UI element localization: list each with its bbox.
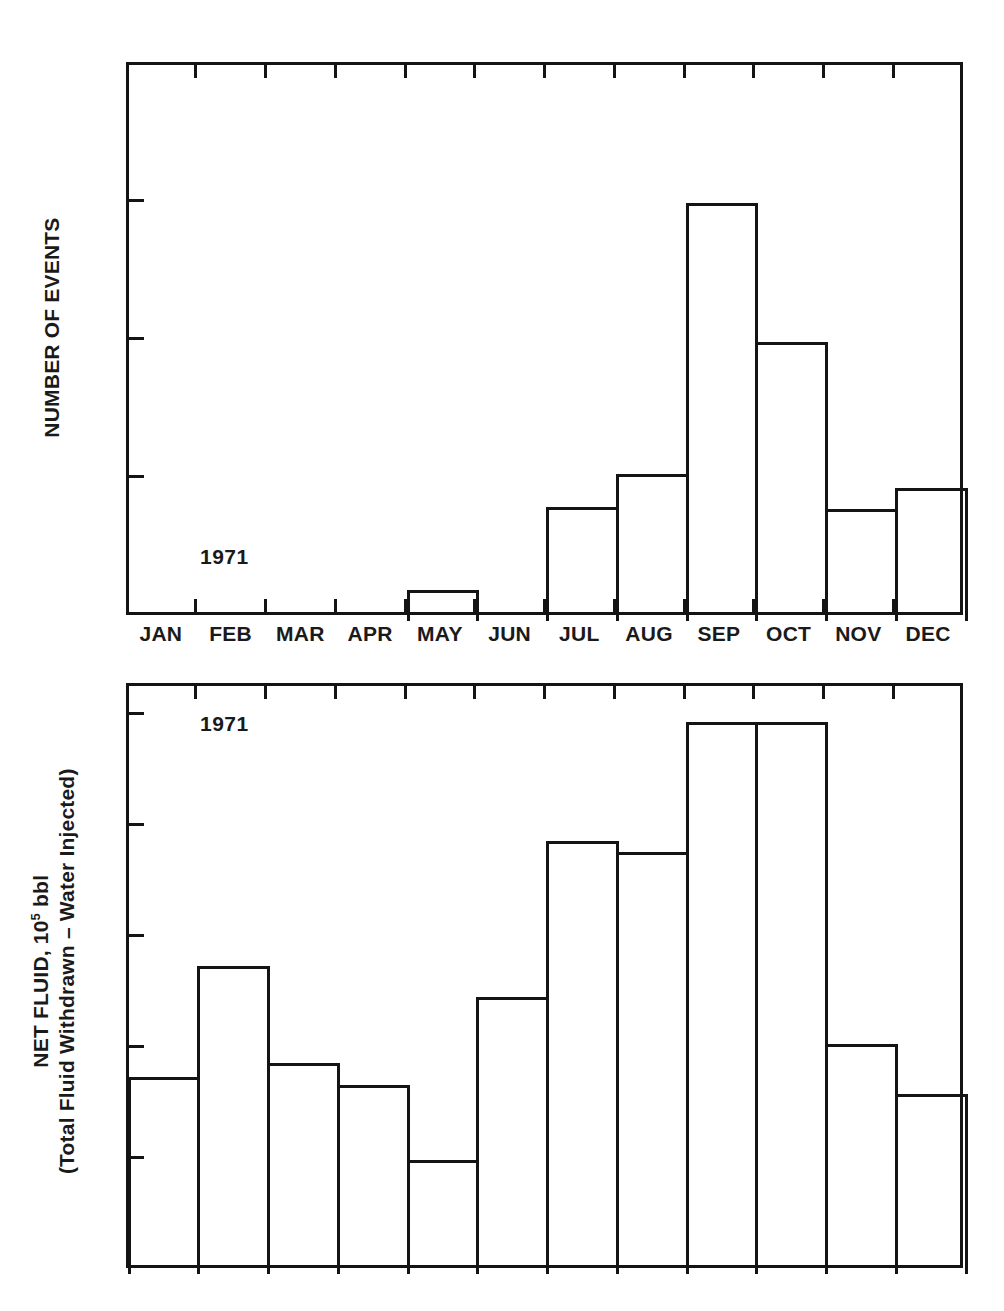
bar-aug: [616, 852, 689, 1274]
y-axis-title-pre: NET FLUID, 10: [29, 920, 52, 1067]
x-tick-bottom: [404, 599, 407, 612]
y-axis-title-exponent: 5: [28, 913, 43, 920]
x-tick-label-aug: AUG: [614, 622, 684, 646]
x-tick-top: [473, 65, 476, 78]
annotation-year-net-fluid: 1971: [200, 712, 249, 736]
x-tick-label-nov: NOV: [824, 622, 894, 646]
y-tick: [129, 712, 144, 715]
x-tick-top: [683, 65, 686, 78]
x-tick-bottom: [822, 599, 825, 612]
bar-dec: [895, 1094, 968, 1274]
x-tick-bottom: [752, 599, 755, 612]
y-axis-title-line2: (Total Fluid Withdrawn – Water Injected): [54, 736, 80, 1206]
bar-feb: [197, 966, 270, 1274]
bar-may: [407, 1160, 480, 1274]
x-tick-label-jul: JUL: [545, 622, 615, 646]
x-tick-bottom: [194, 599, 197, 612]
y-tick: [129, 337, 144, 340]
x-tick-top: [822, 65, 825, 78]
x-tick-label-may: MAY: [405, 622, 475, 646]
bar-oct: [755, 342, 828, 622]
x-tick-label-mar: MAR: [266, 622, 336, 646]
y-tick: [129, 1045, 144, 1048]
x-tick-top: [194, 686, 197, 699]
bar-sep: [686, 722, 759, 1274]
x-tick-top: [264, 65, 267, 78]
x-tick-bottom: [473, 599, 476, 612]
x-tick-top: [752, 65, 755, 78]
bar-nov: [825, 509, 898, 621]
y-axis-title-net-fluid: NET FLUID, 105 bbl (Total Fluid Withdraw…: [28, 736, 81, 1206]
x-tick-label-dec: DEC: [893, 622, 963, 646]
x-tick-top: [613, 65, 616, 78]
x-tick-top: [404, 686, 407, 699]
x-tick-top: [543, 65, 546, 78]
x-tick-label-sep: SEP: [684, 622, 754, 646]
y-tick: [129, 1156, 144, 1159]
x-tick-top: [334, 686, 337, 699]
x-tick-bottom: [892, 599, 895, 612]
x-tick-label-feb: FEB: [196, 622, 266, 646]
x-tick-label-jun: JUN: [475, 622, 545, 646]
x-tick-top: [892, 686, 895, 699]
plot-frame-net-fluid: [126, 683, 963, 1268]
x-tick-bottom: [683, 599, 686, 612]
x-tick-label-oct: OCT: [754, 622, 824, 646]
y-tick: [129, 475, 144, 478]
bar-mar: [267, 1063, 340, 1274]
y-axis-title-post: bbl: [29, 875, 52, 913]
x-tick-top: [473, 686, 476, 699]
x-tick-top: [683, 686, 686, 699]
bar-apr: [337, 1085, 410, 1274]
x-tick-label-jan: JAN: [126, 622, 196, 646]
x-tick-label-apr: APR: [335, 622, 405, 646]
bar-oct: [755, 722, 828, 1274]
bar-dec: [895, 488, 968, 621]
annotation-year-events: 1971: [200, 545, 249, 569]
y-tick: [129, 199, 144, 202]
x-tick-top: [822, 686, 825, 699]
x-tick-bottom: [613, 599, 616, 612]
x-tick-top: [334, 65, 337, 78]
x-tick-top: [543, 686, 546, 699]
bar-aug: [616, 474, 689, 621]
bar-sep: [686, 203, 759, 621]
y-tick: [129, 823, 144, 826]
bars-layer-net-fluid: [129, 686, 960, 1265]
bar-nov: [825, 1044, 898, 1274]
x-tick-top: [264, 686, 267, 699]
x-tick-top: [194, 65, 197, 78]
bar-jul: [546, 507, 619, 621]
bar-jan: [128, 1077, 201, 1274]
x-tick-bottom: [264, 599, 267, 612]
y-axis-title-line1: NET FLUID, 105 bbl: [29, 875, 52, 1068]
plot-frame-events: [126, 62, 963, 615]
x-tick-bottom: [334, 599, 337, 612]
bar-jun: [476, 997, 549, 1274]
bar-jul: [546, 841, 619, 1274]
x-tick-top: [892, 65, 895, 78]
x-tick-top: [752, 686, 755, 699]
bars-layer-events: [129, 65, 960, 612]
bar-may: [407, 590, 480, 621]
x-tick-top: [613, 686, 616, 699]
y-axis-title-events: NUMBER OF EVENTS: [40, 163, 63, 493]
x-tick-bottom: [543, 599, 546, 612]
y-tick: [129, 934, 144, 937]
x-tick-top: [404, 65, 407, 78]
